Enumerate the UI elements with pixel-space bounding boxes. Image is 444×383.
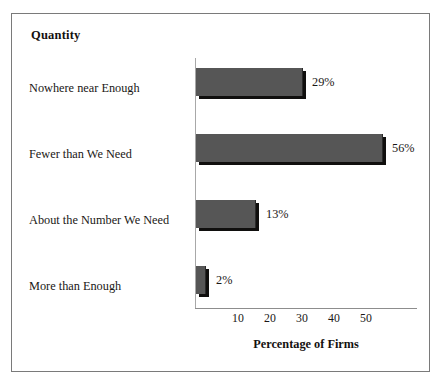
bar-value-nowhere-near-enough: 29% bbox=[312, 75, 335, 90]
xtick-label-30: 30 bbox=[296, 311, 308, 326]
value-axis-line bbox=[195, 308, 417, 309]
xtick-label-10: 10 bbox=[232, 311, 244, 326]
category-label-about-the-number-we-need: About the Number We Need bbox=[29, 214, 169, 226]
bar-value-fewer-than-we-need: 56% bbox=[392, 141, 415, 156]
bar-fewer-than-we-need bbox=[196, 134, 383, 162]
x-axis-title: Percentage of Firms bbox=[253, 337, 359, 352]
xtick-label-40: 40 bbox=[328, 311, 340, 326]
xtick-label-50: 50 bbox=[360, 311, 372, 326]
bar-nowhere-near-enough bbox=[196, 68, 303, 96]
bar-value-about-the-number-we-need: 13% bbox=[266, 207, 289, 222]
plot-area: Nowhere near Enough Fewer than We Need A… bbox=[0, 0, 444, 383]
category-label-nowhere-near-enough: Nowhere near Enough bbox=[29, 82, 140, 94]
bar-about-the-number-we-need bbox=[196, 200, 256, 228]
category-label-more-than-enough: More than Enough bbox=[29, 280, 121, 292]
chart-figure: Quantity Nowhere near Enough Fewer than … bbox=[0, 0, 444, 383]
bar-value-more-than-enough: 2% bbox=[216, 273, 232, 288]
bar-more-than-enough bbox=[196, 266, 206, 294]
xtick-label-20: 20 bbox=[264, 311, 276, 326]
category-label-fewer-than-we-need: Fewer than We Need bbox=[29, 148, 132, 160]
